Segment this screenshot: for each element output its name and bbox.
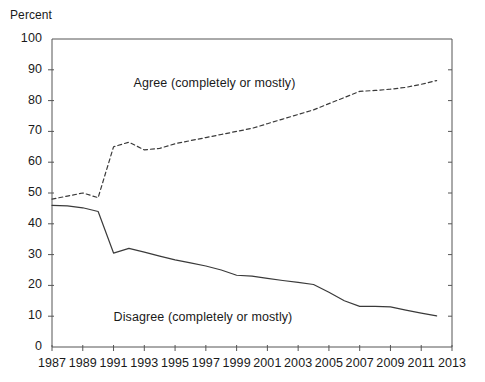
y-axis-tick-label: 80 bbox=[8, 93, 42, 107]
x-axis-tick-label: 2013 bbox=[432, 356, 472, 370]
y-axis-tick-label: 50 bbox=[8, 185, 42, 199]
y-axis-tick-label: 20 bbox=[8, 277, 42, 291]
series-line-disagree bbox=[52, 205, 437, 316]
y-axis-tick-label: 10 bbox=[8, 308, 42, 322]
chart-plot-area bbox=[0, 0, 485, 382]
y-axis-tick-label: 100 bbox=[8, 31, 42, 45]
y-axis-tick-label: 0 bbox=[8, 339, 42, 353]
data-series-group bbox=[52, 81, 437, 316]
agree-series-label: Agree (completely or mostly) bbox=[134, 76, 296, 90]
series-line-agree bbox=[52, 81, 437, 200]
x-axis-tick-marks bbox=[52, 345, 452, 351]
chart-figure: Percent 1009080706050403020100 198719891… bbox=[0, 0, 485, 382]
y-axis-tick-label: 30 bbox=[8, 247, 42, 261]
y-axis-tick-label: 60 bbox=[8, 154, 42, 168]
y-axis-tick-label: 70 bbox=[8, 123, 42, 137]
y-axis-tick-marks-right bbox=[448, 70, 452, 316]
y-axis-tick-label: 90 bbox=[8, 62, 42, 76]
y-axis-tick-marks bbox=[48, 70, 54, 316]
disagree-series-label: Disagree (completely or mostly) bbox=[114, 310, 293, 324]
y-axis-tick-label: 40 bbox=[8, 216, 42, 230]
